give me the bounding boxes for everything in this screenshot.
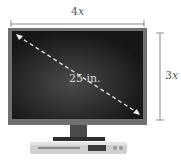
height-coef: 3	[165, 69, 172, 82]
height-label: 3x	[165, 70, 178, 81]
height-var: x	[172, 69, 178, 82]
diagonal-label: 25 in.	[69, 73, 101, 84]
width-coef: 4	[71, 5, 78, 18]
media-player-graphic	[30, 141, 127, 155]
media-player	[30, 140, 127, 154]
height-dimension-line	[155, 32, 165, 122]
height-dimension	[155, 32, 165, 122]
width-dimension-line	[10, 17, 145, 27]
width-label: 4x	[71, 6, 84, 17]
width-var: x	[78, 5, 84, 18]
